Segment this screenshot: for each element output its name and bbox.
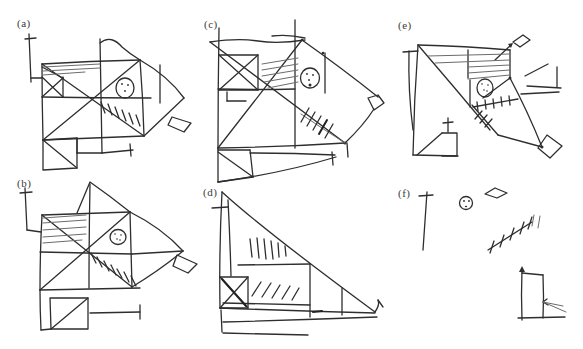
diamond-b	[173, 255, 197, 273]
panel-e: (e)	[395, 14, 580, 165]
panel-a: (a)	[10, 14, 200, 175]
diamond-e-top	[513, 35, 530, 47]
sketch-b-parallels	[43, 215, 86, 243]
diamond-f	[485, 188, 507, 198]
panel-label-c: (c)	[204, 18, 218, 30]
panel-b: (b)	[10, 176, 200, 340]
face-glyph-a	[116, 78, 134, 98]
rectangle-f	[518, 266, 565, 320]
panel-label-a: (a)	[17, 17, 31, 29]
face-glyph-c	[301, 68, 320, 88]
sketch-c-strokes	[210, 20, 384, 182]
hatch-marks-f	[488, 217, 532, 253]
sketch-b-strokes	[20, 182, 197, 330]
diamond-c	[368, 95, 384, 110]
sketch-d-strokes	[212, 192, 383, 335]
face-glyph-e	[477, 79, 493, 97]
hatch-marks-a	[101, 102, 140, 126]
panel-c: (c)	[198, 14, 395, 189]
panel-d: (d)	[198, 185, 390, 340]
hatch-marks-b	[91, 253, 136, 286]
panel-label-b: (b)	[17, 177, 31, 189]
sketch-a-strokes	[25, 34, 191, 170]
panel-f: (f)	[395, 185, 580, 330]
sketch-e	[395, 14, 580, 165]
sketch-b	[10, 176, 200, 340]
sketch-a-parallels	[43, 64, 100, 75]
figure-canvas: (a)	[0, 0, 583, 349]
panel-label-e: (e)	[398, 19, 412, 31]
sketch-d	[198, 185, 390, 340]
face-glyph-f	[460, 197, 473, 210]
sketch-a	[10, 14, 200, 175]
sketch-c	[198, 14, 395, 189]
panel-label-f: (f)	[398, 187, 411, 199]
panel-label-d: (d)	[203, 186, 217, 198]
diamond-a	[168, 117, 191, 132]
hatch-marks-d-diagonal	[252, 282, 299, 300]
sketch-f-strokes	[419, 188, 565, 320]
face-glyph-b	[110, 230, 126, 245]
hatch-marks-e	[473, 96, 518, 127]
sketch-f-light-strokes	[532, 215, 566, 312]
hatch-marks-c	[301, 108, 333, 138]
sketch-f	[395, 185, 580, 330]
